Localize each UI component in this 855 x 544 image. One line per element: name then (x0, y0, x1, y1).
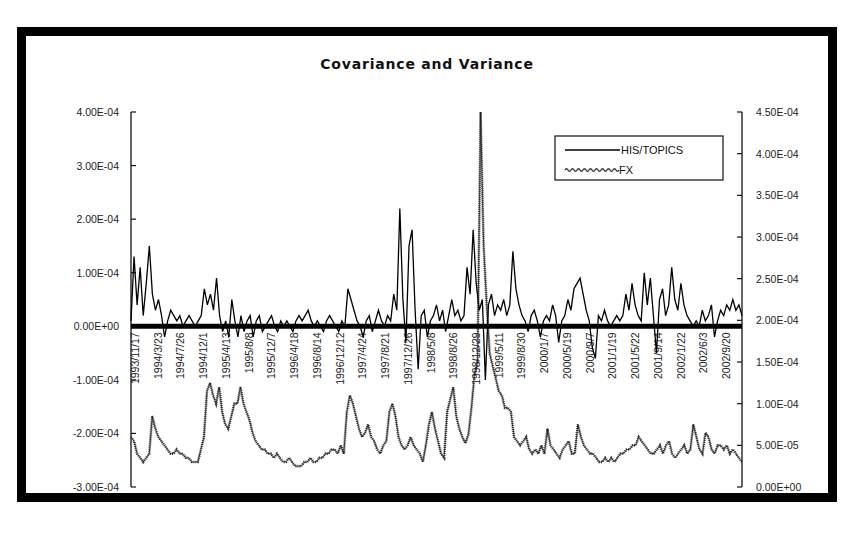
left-axis-tick-label: 0.00E+00 (74, 320, 119, 332)
x-axis-tick-label: 2002/6/3 (697, 332, 709, 373)
x-axis-tick-label: 1998/8/26 (447, 332, 459, 379)
chart-title: Covariance and Variance (320, 56, 533, 72)
legend-box (555, 136, 723, 180)
left-axis-tick-label: -3.00E-04 (73, 481, 119, 493)
x-axis-tick-label: 2001/1/19 (606, 332, 618, 379)
right-axis-tick-label: 0.00E+00 (756, 481, 801, 493)
x-axis-tick-label: 1995/8/8 (243, 332, 255, 373)
x-axis-tick-label: 1994/3/23 (152, 332, 164, 379)
right-axis-tick-label: 4.50E-04 (756, 106, 799, 118)
right-axis-tick-label: 1.50E-04 (756, 356, 799, 368)
x-axis-tick-label: 1996/8/14 (311, 332, 323, 379)
legend: HIS/TOPICS FX (555, 136, 723, 180)
left-axis-tick-label: 1.00E-04 (76, 267, 119, 279)
left-axis-tick-label: 4.00E-04 (76, 106, 119, 118)
x-axis-tick-label: 1993/11/17 (129, 332, 141, 384)
x-axis-tick-label: 2000/1/7 (538, 332, 550, 373)
x-axis-tick-label: 1997/8/21 (379, 332, 391, 379)
chart: Covariance and Variance 4.00E-043.00E-04… (0, 0, 855, 544)
right-axis-tick-label: 2.00E-04 (756, 314, 799, 326)
x-axis-tick-label: 1996/12/12 (334, 332, 346, 385)
x-axis-tick-label: 1997/4/24 (356, 332, 368, 379)
x-axis-tick-label: 1998/5/8 (425, 332, 437, 373)
x-axis-tick-label: 2002/9/20 (720, 332, 732, 379)
left-y-axis: 4.00E-043.00E-042.00E-041.00E-040.00E+00… (73, 106, 136, 493)
right-axis-tick-label: 2.50E-04 (756, 273, 799, 285)
right-axis-tick-label: 3.00E-04 (756, 231, 799, 243)
x-axis-tick-label: 1995/12/7 (265, 332, 277, 379)
x-axis-tick-label: 1995/4/13 (220, 332, 232, 379)
x-axis-tick-label: 2000/5/19 (561, 332, 573, 379)
right-axis-tick-label: 5.00E-05 (756, 439, 799, 451)
legend-label-fx: FX (619, 164, 634, 176)
x-axis-tick-label: 1994/7/26 (174, 332, 186, 379)
x-axis-tick-label: 1997/12/26 (402, 332, 414, 385)
left-axis-tick-label: -2.00E-04 (73, 427, 119, 439)
x-axis-tick-label: 2001/5/22 (629, 332, 641, 379)
right-axis-tick-label: 3.50E-04 (756, 189, 799, 201)
left-axis-tick-label: -1.00E-04 (73, 374, 119, 386)
right-axis-tick-label: 4.00E-04 (756, 148, 799, 160)
right-axis-tick-label: 1.00E-04 (756, 398, 799, 410)
x-axis-tick-label: 2002/1/22 (675, 332, 687, 379)
x-axis-tick-label: 1999/8/30 (515, 332, 527, 379)
x-axis-labels: 1993/11/171994/3/231994/7/261994/12/1199… (129, 332, 732, 385)
right-y-axis: 4.50E-044.00E-043.50E-043.00E-042.50E-04… (737, 106, 801, 493)
left-axis-tick-label: 2.00E-04 (76, 213, 119, 225)
x-axis-tick-label: 1998/12/29 (470, 332, 482, 385)
x-axis-tick-label: 1994/12/1 (197, 332, 209, 379)
x-axis-tick-label: 1996/4/18 (288, 332, 300, 379)
left-axis-tick-label: 3.00E-04 (76, 160, 119, 172)
legend-label-his-topics: HIS/TOPICS (621, 144, 683, 156)
